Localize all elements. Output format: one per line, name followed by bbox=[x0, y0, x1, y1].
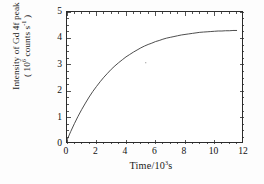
y-tick-label: 4 bbox=[48, 32, 62, 42]
y-axis-label-exponent-2: -1 bbox=[20, 21, 27, 26]
x-tick-label: 2 bbox=[86, 146, 106, 156]
x-tick-label: 6 bbox=[145, 146, 165, 156]
y-axis-label-line1: Intensity of Gd 4f peak bbox=[11, 2, 22, 90]
y-tick-label: 5 bbox=[48, 6, 62, 16]
x-axis-label: Time/103s bbox=[0, 160, 264, 171]
x-axis-label-prefix: Time/10 bbox=[129, 160, 165, 171]
x-tick-label: 10 bbox=[204, 146, 224, 156]
y-axis-label-line2: ( 106 counts s-1 ) bbox=[22, 15, 33, 77]
speck-mark bbox=[145, 62, 146, 63]
x-tick-label: 12 bbox=[233, 146, 253, 156]
x-axis-label-suffix: s bbox=[168, 160, 172, 171]
y-axis-label-line2-suffix: ) bbox=[22, 15, 32, 21]
plot-area bbox=[66, 11, 243, 143]
axis-ticks bbox=[67, 12, 244, 144]
y-tick-label: 0 bbox=[48, 138, 62, 148]
x-tick-label: 8 bbox=[174, 146, 194, 156]
y-axis-label: Intensity of Gd 4f peak ( 106 counts s-1… bbox=[2, 0, 42, 112]
y-tick-label: 2 bbox=[48, 85, 62, 95]
y-axis-label-exponent: 6 bbox=[20, 59, 27, 62]
x-tick-label: 4 bbox=[115, 146, 135, 156]
y-axis-label-line2-mid: counts s bbox=[22, 26, 32, 59]
plot-svg bbox=[67, 12, 244, 144]
data-curve bbox=[67, 30, 237, 140]
annotation-marks bbox=[145, 62, 146, 63]
y-axis-label-line2-prefix: ( 10 bbox=[22, 62, 32, 77]
chart-figure: Intensity of Gd 4f peak ( 106 counts s-1… bbox=[0, 0, 264, 184]
y-tick-label: 3 bbox=[48, 59, 62, 69]
y-tick-label: 1 bbox=[48, 112, 62, 122]
